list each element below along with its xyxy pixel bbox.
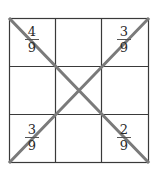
fraction-bottom-right: 2 9	[114, 123, 134, 152]
numerator: 4	[22, 25, 42, 38]
denominator: 9	[22, 139, 42, 152]
fraction-bottom-left: 3 9	[22, 123, 42, 152]
fraction-top-left: 4 9	[22, 25, 42, 54]
numerator: 3	[22, 123, 42, 136]
denominator: 9	[114, 41, 134, 54]
numerator: 3	[114, 25, 134, 38]
denominator: 9	[114, 139, 134, 152]
grid-diagram: 4 9 3 9 3 9 2 9	[0, 0, 157, 170]
fraction-top-right: 3 9	[114, 25, 134, 54]
denominator: 9	[22, 41, 42, 54]
numerator: 2	[114, 123, 134, 136]
